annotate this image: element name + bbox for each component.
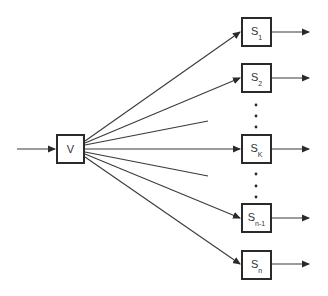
ellipsis-lower <box>255 173 258 199</box>
block-sk: SK <box>241 134 272 164</box>
block-sn-1: Sn-1 <box>241 203 272 233</box>
ray-to-sn <box>85 157 240 264</box>
block-sn: Sn <box>241 250 272 280</box>
block-s1: S1 <box>241 17 272 47</box>
block-v-label: V <box>67 143 74 155</box>
block-v: V <box>56 134 85 164</box>
block-sn-1-label: Sn-1 <box>248 211 265 225</box>
block-sn-label: Sn <box>251 258 262 272</box>
block-s2-label: S2 <box>251 71 262 85</box>
ray-to-sn-1 <box>85 154 240 218</box>
block-s2: S2 <box>241 63 272 93</box>
block-sk-label: SK <box>250 142 262 156</box>
ray-to-s2 <box>85 78 240 143</box>
ellipsis-upper <box>255 104 258 129</box>
diagram-canvas <box>0 0 328 296</box>
ray-partial-upper <box>85 121 208 145</box>
ray-partial-lower <box>85 152 208 176</box>
ray-to-s1 <box>85 32 240 141</box>
block-s1-label: S1 <box>251 25 262 39</box>
